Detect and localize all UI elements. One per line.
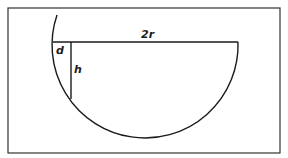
diagram-canvas: 2r d h xyxy=(0,0,288,158)
geometry-figure: 2r d h xyxy=(0,0,288,158)
label-height-h: h xyxy=(74,63,82,76)
label-chord-2r: 2r xyxy=(141,28,155,41)
label-offset-d: d xyxy=(56,44,64,57)
